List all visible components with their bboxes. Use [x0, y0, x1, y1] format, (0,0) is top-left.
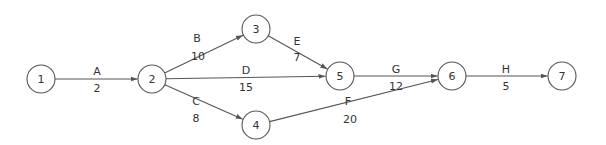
- activity-label: D: [242, 65, 250, 76]
- node-label: 1: [38, 74, 45, 85]
- duration-label: 5: [503, 81, 510, 92]
- edges-layer: [0, 0, 606, 145]
- duration-label: 12: [389, 81, 403, 92]
- edge-group: [55, 35, 548, 121]
- duration-label: 20: [343, 114, 357, 125]
- activity-label: A: [93, 66, 101, 77]
- edge-arrow-d: [166, 76, 326, 79]
- node-label: 4: [253, 120, 260, 131]
- activity-label: F: [345, 96, 351, 107]
- duration-label: 15: [239, 82, 253, 93]
- activity-label: C: [192, 96, 200, 107]
- activity-label: B: [193, 33, 201, 44]
- node-label: 7: [559, 71, 566, 82]
- activity-label: H: [502, 64, 510, 75]
- activity-label: G: [392, 64, 401, 75]
- node-label: 3: [253, 24, 260, 35]
- node-label: 2: [149, 74, 156, 85]
- duration-label: 7: [294, 52, 301, 63]
- activity-label: E: [294, 36, 301, 47]
- node-label: 5: [337, 71, 344, 82]
- duration-label: 8: [193, 113, 200, 124]
- network-diagram: A2B10C8D15E7F20G12H51234567: [0, 0, 606, 145]
- node-label: 6: [449, 71, 456, 82]
- duration-label: 2: [94, 83, 101, 94]
- edge-arrow-c: [165, 85, 243, 119]
- duration-label: 10: [191, 51, 205, 62]
